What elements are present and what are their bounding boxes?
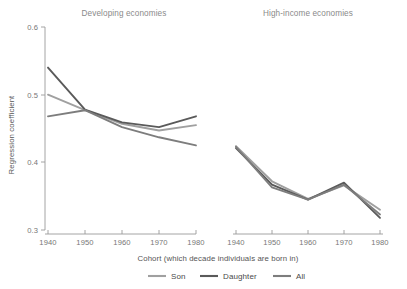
series-lines-right <box>236 146 380 218</box>
x-axis-title: Cohort (which decade individuals are bor… <box>138 254 299 263</box>
series-lines-left <box>48 68 196 146</box>
x-tick-label: 1980 <box>371 238 388 247</box>
x-tick-label: 1960 <box>299 238 316 247</box>
legend-label-daughter: Daughter <box>223 272 257 281</box>
chart-figure: Regression coefficient Cohort (which dec… <box>0 0 407 289</box>
y-tick-label: 0.5 <box>27 91 38 100</box>
chart-legend: Son Daughter All <box>148 272 305 281</box>
legend-label-son: Son <box>171 272 186 281</box>
series-line-daughter <box>236 148 380 218</box>
legend-label-all: All <box>296 272 305 281</box>
x-axis-ticks-left <box>48 230 196 234</box>
y-axis-title: Regression coefficient <box>7 95 16 175</box>
x-tick-label: 1940 <box>227 238 244 247</box>
x-tick-label: 1940 <box>39 238 56 247</box>
x-tick-label: 1970 <box>150 238 167 247</box>
panel-developing-economies: Developing economies 0.6 0.5 0.4 0.3 <box>27 9 205 247</box>
y-tick-label: 0.3 <box>27 226 38 235</box>
panel-title-developing: Developing economies <box>82 9 167 18</box>
x-tick-label: 1950 <box>263 238 280 247</box>
series-line-all <box>236 147 380 215</box>
x-axis-ticks-right <box>236 230 380 234</box>
x-tick-label: 1950 <box>76 238 93 247</box>
panel-high-income-economies: High-income economies 1940 1950 1960 197… <box>227 9 388 247</box>
y-tick-label: 0.4 <box>27 158 38 167</box>
legend-item-son[interactable]: Son <box>148 272 186 281</box>
panel-title-high-income: High-income economies <box>263 9 353 18</box>
legend-item-all[interactable]: All <box>273 272 305 281</box>
legend-item-daughter[interactable]: Daughter <box>200 272 257 281</box>
series-line-daughter <box>48 68 196 128</box>
chart-svg: Regression coefficient Cohort (which dec… <box>0 0 407 289</box>
x-tick-label: 1980 <box>187 238 204 247</box>
y-axis-ticks-left <box>41 27 45 230</box>
x-tick-label: 1960 <box>113 238 130 247</box>
x-tick-label: 1970 <box>335 238 352 247</box>
y-tick-label: 0.6 <box>27 23 38 32</box>
